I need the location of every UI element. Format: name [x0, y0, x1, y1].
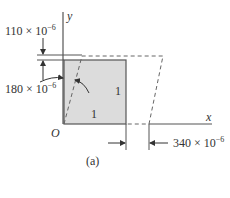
strain-diagram: y x O 1 1 110 × 10−6 180 × 10−6 340 × 10… [0, 0, 230, 198]
side-label-bottom: 1 [91, 107, 97, 121]
right-offset-label: 340 × 10−6 [173, 135, 224, 150]
side-label-right: 1 [115, 84, 121, 98]
x-axis-label: x [205, 110, 212, 124]
top-offset-label: 110 × 10−6 [5, 23, 56, 38]
y-axis-label: y [66, 9, 73, 23]
origin-label: O [51, 126, 60, 140]
figure-caption: (a) [86, 154, 99, 168]
left-angle-label: 180 × 10−6 [5, 81, 56, 96]
